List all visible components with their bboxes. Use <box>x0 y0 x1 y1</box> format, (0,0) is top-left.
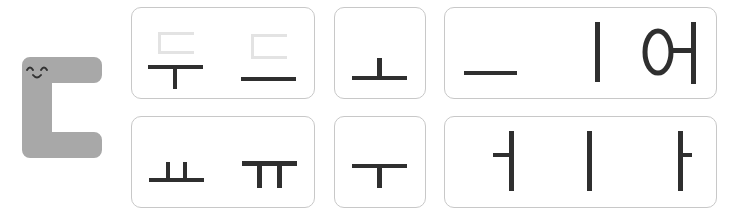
vowel-u <box>352 164 408 196</box>
mascot-digeut-icon <box>22 57 102 158</box>
card-eu-i-eo: ㅡ ㅣ 어 <box>444 7 717 99</box>
vowel-eu <box>464 71 517 75</box>
card-eo-i-a: ㅓ ㅣ ㅏ <box>444 116 717 208</box>
syllable-eo <box>641 22 701 84</box>
vowel-i <box>595 22 600 82</box>
vowel-a <box>678 131 700 193</box>
vowel-i <box>587 131 592 191</box>
vowel-yu <box>242 161 298 197</box>
card-u: ㅜ <box>334 116 426 208</box>
card-yo-yu: ㅛ ㅠ <box>131 116 315 208</box>
card-o: ㅗ <box>334 7 426 99</box>
vowel-o <box>352 58 408 84</box>
syllable-du <box>148 24 206 94</box>
vowel-yo <box>149 162 205 188</box>
vowel-eo <box>493 131 515 193</box>
card-du-deu: 두 드 <box>131 7 315 99</box>
syllable-deu <box>241 26 299 86</box>
